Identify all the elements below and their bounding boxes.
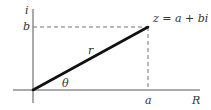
- a-label: a: [145, 95, 152, 106]
- vector-r: [33, 27, 148, 90]
- r-label: r: [88, 45, 93, 56]
- z-label: z = a + bi: [153, 13, 208, 24]
- b-label: b: [23, 21, 30, 32]
- real-axis-label: R: [192, 95, 200, 106]
- imaginary-axis-label: i: [25, 5, 29, 16]
- theta-label: θ: [62, 78, 69, 89]
